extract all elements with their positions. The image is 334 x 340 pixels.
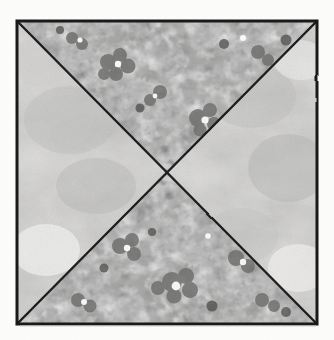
scan-shadow xyxy=(20,325,316,327)
quilt-block-drawing xyxy=(0,0,334,340)
quilt-block-figure: g xyxy=(0,0,334,340)
paper-grain-overlay xyxy=(0,0,334,340)
